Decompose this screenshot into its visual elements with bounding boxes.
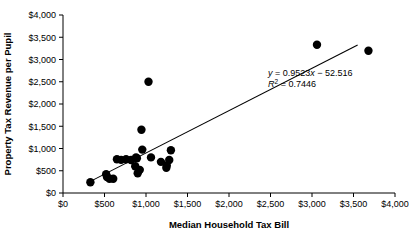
data-point xyxy=(313,41,321,49)
regression-annotation: y = 0.9523x − 52.516R2 = 0.7446 xyxy=(267,68,353,89)
data-point xyxy=(138,145,146,153)
data-point xyxy=(364,47,372,55)
data-point xyxy=(147,153,155,161)
x-axis-tick-label: $2,000 xyxy=(215,199,243,209)
scatter-chart: $0$500$1,000$1,500$2,000$2,500$3,000$3,5… xyxy=(0,0,415,235)
y-axis-tick-label: $3,500 xyxy=(28,33,56,43)
x-axis-title: Median Household Tax Bill xyxy=(169,219,289,230)
y-axis-tick-label: $2,500 xyxy=(28,77,56,87)
x-axis-tick-label: $0 xyxy=(58,199,68,209)
x-axis-tick-label: $1,000 xyxy=(132,199,160,209)
x-axis-tick-label: $3,000 xyxy=(298,199,326,209)
data-point xyxy=(86,178,94,186)
y-axis-tick-label: $3,000 xyxy=(28,55,56,65)
plot-area: $0$500$1,000$1,500$2,000$2,500$3,000$3,5… xyxy=(0,0,415,235)
data-point xyxy=(136,166,144,174)
y-axis-tick-label: $1,000 xyxy=(28,144,56,154)
y-axis-tick-label: $500 xyxy=(36,166,56,176)
x-axis-tick-label: $1,500 xyxy=(174,199,202,209)
y-axis-tick-label: $4,000 xyxy=(28,10,56,20)
x-axis-tick-label: $3,500 xyxy=(340,199,368,209)
y-axis-title: Property Tax Revenue per Pupil xyxy=(2,33,13,176)
data-point xyxy=(109,175,117,183)
y-axis-tick-label: $1,500 xyxy=(28,122,56,132)
regression-equation: y = 0.9523x − 52.516 xyxy=(267,68,353,78)
data-point xyxy=(144,78,152,86)
data-point xyxy=(133,154,141,162)
data-point xyxy=(167,146,175,154)
y-axis-tick-label: $0 xyxy=(46,188,56,198)
x-axis-tick-label: $4,000 xyxy=(381,199,409,209)
x-axis-tick-label: $2,500 xyxy=(257,199,285,209)
x-axis-tick-label: $500 xyxy=(94,199,114,209)
y-axis-tick-label: $2,000 xyxy=(28,99,56,109)
data-point xyxy=(165,156,173,164)
data-point xyxy=(137,126,145,134)
